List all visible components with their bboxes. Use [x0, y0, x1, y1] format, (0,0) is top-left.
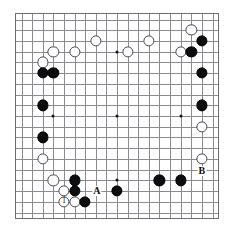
- grid-line-vertical: [138, 14, 139, 218]
- star-point: [116, 179, 119, 182]
- grid-line-vertical: [213, 14, 214, 218]
- grid-line-horizontal: [16, 202, 218, 203]
- star-point: [179, 115, 182, 118]
- go-board[interactable]: 1 AB: [15, 13, 219, 219]
- star-point: [116, 115, 119, 118]
- stone-move-number: 1: [62, 198, 66, 206]
- grid-line-vertical: [170, 14, 171, 218]
- grid-line-vertical: [128, 14, 129, 218]
- grid-line-horizontal: [16, 148, 218, 149]
- go-diagram-screenshot: 1 AB: [0, 0, 232, 242]
- grid-line-horizontal: [16, 127, 218, 128]
- board-point-label-a: A: [92, 186, 101, 196]
- grid-line-vertical: [191, 14, 192, 218]
- board-point-label-b: B: [198, 166, 207, 176]
- star-point: [52, 115, 55, 118]
- grid-line-horizontal: [16, 170, 218, 171]
- star-point: [116, 50, 119, 53]
- grid-line-vertical: [159, 14, 160, 218]
- grid-line-horizontal: [16, 213, 218, 214]
